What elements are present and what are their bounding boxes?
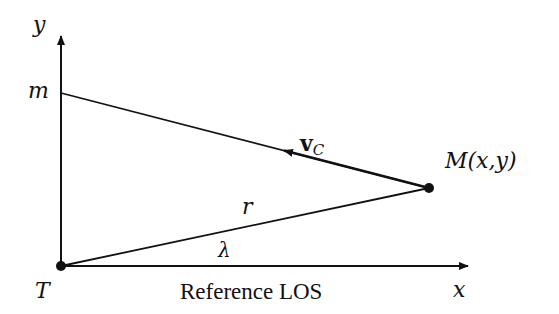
engagement-geometry-diagram: y m T Reference LOS x M(x,y) r λ vC xyxy=(0,0,559,314)
missile-point xyxy=(424,183,434,193)
missile-label: M(x,y) xyxy=(445,150,517,172)
velocity-label-main: v xyxy=(300,130,313,156)
velocity-label: vC xyxy=(300,132,324,154)
target-point xyxy=(56,261,66,271)
velocity-vector-arrow xyxy=(284,151,429,189)
target-label-t: T xyxy=(35,280,50,302)
y-axis-label: y xyxy=(33,14,45,36)
range-label-r: r xyxy=(242,196,253,218)
velocity-label-subscript: C xyxy=(313,141,324,159)
angle-label-lambda: λ xyxy=(218,240,231,260)
intercept-label-m: m xyxy=(28,80,49,102)
x-axis-label: x xyxy=(453,279,465,301)
reference-los-caption: Reference LOS xyxy=(180,280,322,303)
